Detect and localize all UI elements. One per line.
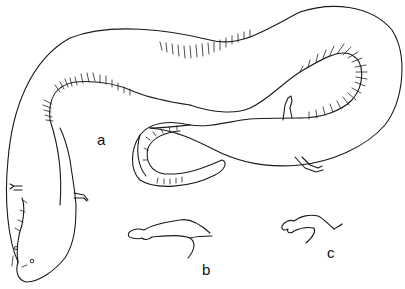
detail-b-limb [128,220,212,258]
figure-label-b: b [202,262,210,277]
salamander-figure: a b c [0,0,405,289]
figure-drawing [0,0,405,289]
tail [133,122,226,186]
figure-label-a: a [97,132,105,147]
head [12,128,76,282]
costal-grooves-dorsal [160,30,250,58]
costal-grooves-left [43,73,130,121]
body-outline [6,6,401,262]
eye-right [30,259,34,263]
figure-label-c: c [327,245,335,260]
hindlimb-lower [295,157,323,172]
hindlimb-upper [283,96,292,120]
detail-c-limb [282,215,342,243]
